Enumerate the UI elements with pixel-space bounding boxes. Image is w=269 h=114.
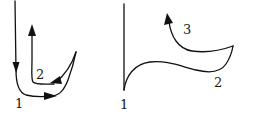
right-label-3: 3 (183, 23, 191, 36)
diagonal-arrow-icon (50, 76, 62, 84)
up-arrow-icon-right (164, 13, 173, 25)
left-path-descending (15, 1, 16, 70)
diagram-canvas (0, 0, 269, 114)
left-label-2: 2 (36, 68, 44, 81)
right-label-2: 2 (214, 76, 222, 89)
left-label-1: 1 (15, 97, 23, 110)
up-arrow-icon (28, 24, 36, 36)
right-label-1: 1 (120, 98, 128, 111)
right-path-return (169, 22, 233, 52)
left-diagram (13, 1, 77, 100)
